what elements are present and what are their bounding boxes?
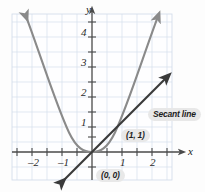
parabola-secant-figure: –2 –1 1 2 1 2 3 4 x y Secant line (1, 1)… <box>0 0 205 192</box>
x-axis-label: x <box>188 146 193 157</box>
x-tick-label-neg2: –2 <box>28 157 39 168</box>
y-tick-label-3: 3 <box>81 57 87 68</box>
x-tick-label-neg1: –1 <box>58 157 69 168</box>
y-axis-label: y <box>86 4 91 15</box>
x-tick-label-2: 2 <box>150 157 156 168</box>
secant-line-label: Secant line <box>148 108 201 121</box>
y-tick-label-4: 4 <box>81 27 87 38</box>
point-1-1-label: (1, 1) <box>121 129 150 142</box>
point-0-0-label: (0, 0) <box>96 169 125 182</box>
x-tick-label-1: 1 <box>120 157 126 168</box>
y-tick-label-1: 1 <box>81 117 87 128</box>
y-tick-label-2: 2 <box>81 87 87 98</box>
